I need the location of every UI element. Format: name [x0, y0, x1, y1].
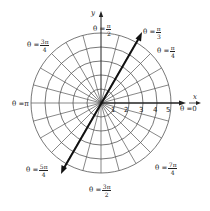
angle-label-theta-pi-over-2: θ = π2 — [93, 22, 111, 37]
angle-label-theta-pi-over-4: θ = π4 — [157, 44, 175, 59]
tick-label-4: 4 — [153, 106, 157, 114]
angle-label-theta-3pi-over-4: θ = 3π4 — [27, 38, 49, 53]
angle-label-theta-3pi-over-2: θ = 3π2 — [89, 183, 111, 198]
x-axis-label: x — [193, 93, 197, 101]
angle-label-theta-7pi-over-4: θ = 7π4 — [155, 161, 177, 176]
tick-label-1: 1 — [111, 106, 115, 114]
angle-label-theta-pi-over-3: θ = π3 — [143, 25, 161, 40]
angle-label-theta-5pi-over-4: θ = 5π4 — [26, 163, 48, 178]
angle-label-theta-pi: θ = π — [12, 101, 29, 108]
y-axis-label: y — [91, 9, 95, 17]
tick-label-5: 5 — [166, 106, 170, 114]
x-axis — [101, 101, 186, 106]
angle-label-theta-0: θ = 0 — [180, 106, 197, 113]
tick-label-3: 3 — [139, 106, 143, 114]
tick-label-2: 2 — [124, 106, 128, 114]
